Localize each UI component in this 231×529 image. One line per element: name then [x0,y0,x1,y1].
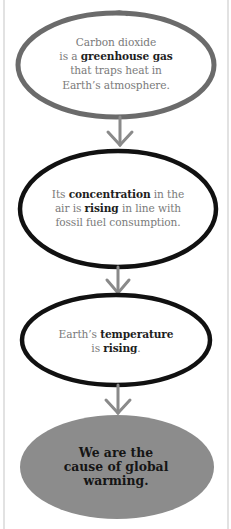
step-2-text: Its concentration in the air is rising i… [30,187,206,230]
step-3-text: Earth’s temperature is rising. [30,327,202,355]
keyword-temperature: temperature [100,328,173,340]
down-arrow-icon [106,385,130,413]
keyword-concentration: concentration [69,188,151,200]
down-arrow-icon [108,117,132,145]
keyword-rising: rising [103,342,137,354]
keyword-rising: rising [85,202,119,214]
down-arrow-icon [107,267,129,293]
conclusion-text: We are the cause of global warming. [30,446,202,488]
keyword-greenhouse-gas: greenhouse gas [81,50,173,62]
step-1-text: Carbon dioxide is a greenhouse gas that … [30,35,202,92]
